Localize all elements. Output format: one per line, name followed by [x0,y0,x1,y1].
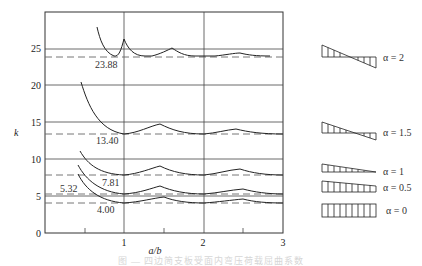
horizontal-gridlines [45,49,283,196]
legend-diagram-alpha-1.5 [322,122,376,140]
min-label-4.00: 4.00 [97,204,115,215]
y-tick-labels: 25 20 15 10 5 0 [31,43,41,239]
dashed-asymptotes [45,57,283,203]
curve-alpha-1 [80,151,283,175]
x-tick-3: 3 [281,237,286,248]
x-tick-1: 1 [122,237,127,248]
legend-diagram-alpha-0 [322,204,376,217]
legend-diagram-alpha-2 [322,45,376,68]
legend-diagram-alpha-0.5 [322,181,376,192]
min-label-23.88: 23.88 [95,59,118,70]
curve-alpha-1.5 [81,82,283,134]
x-tick-labels: 1 2 3 [122,237,286,248]
y-tick-20: 20 [31,80,41,91]
y-axis-label: k [14,127,19,138]
y-tick-0: 0 [36,228,41,239]
y-tick-15: 15 [31,117,41,128]
legend: α = 2 α = 1.5 α = 1 [322,45,411,217]
legend-label-alpha-0: α = 0 [386,205,407,216]
vertical-gridlines [124,12,204,233]
legend-label-alpha-1: α = 1 [383,166,404,177]
y-tick-25: 25 [31,43,41,54]
min-label-13.40: 13.40 [96,135,119,146]
legend-diagram-alpha-1 [322,164,376,172]
buckling-coefficient-chart: 23.88 13.40 7.81 5.32 4.00 25 20 15 10 5… [0,0,422,266]
y-tick-10: 10 [31,154,41,165]
figure-caption: 图 — 四边简支板受面内弯压荷载屈曲系数 [0,254,422,266]
x-tick-2: 2 [201,237,206,248]
y-tick-5: 5 [36,191,41,202]
curve-alpha-2 [97,27,270,56]
min-label-7.81: 7.81 [102,177,120,188]
legend-label-alpha-1.5: α = 1.5 [383,127,411,138]
x-minor-ticks [85,228,243,233]
legend-label-alpha-0.5: α = 0.5 [383,182,411,193]
legend-label-alpha-2: α = 2 [383,52,404,63]
min-label-5.32: 5.32 [60,183,78,194]
